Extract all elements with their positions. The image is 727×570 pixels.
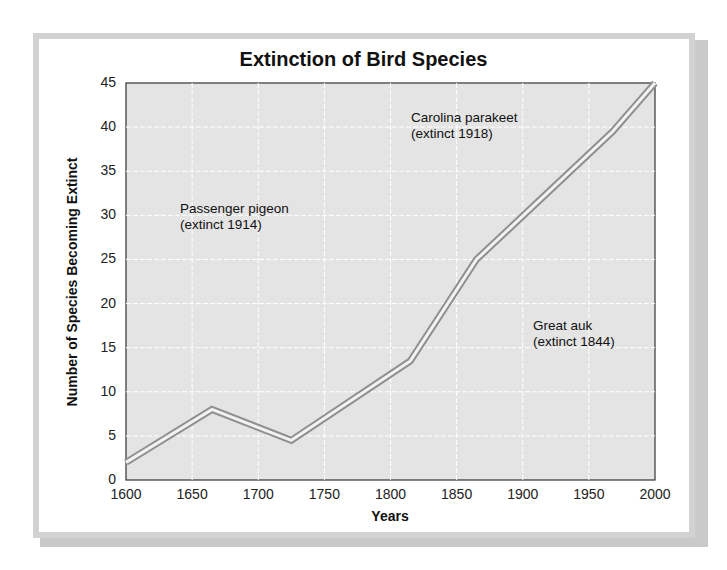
y-tick-label: 45 xyxy=(100,74,116,90)
y-tick-label: 10 xyxy=(100,383,116,399)
annotation-carolina-parakeet: Carolina parakeet (extinct 1918) xyxy=(411,110,518,142)
x-tick-label: 1750 xyxy=(309,486,340,502)
y-tick-label: 20 xyxy=(100,295,116,311)
x-tick-label: 2000 xyxy=(639,486,670,502)
y-tick-label: 5 xyxy=(108,427,116,443)
annotation-label: Carolina parakeet xyxy=(411,110,518,126)
x-tick-label: 1600 xyxy=(110,486,141,502)
x-tick-label: 1900 xyxy=(507,486,538,502)
y-tick-label: 35 xyxy=(100,162,116,178)
y-tick-label: 30 xyxy=(100,206,116,222)
annotation-sub: (extinct 1914) xyxy=(180,217,289,233)
x-tick-label: 1950 xyxy=(573,486,604,502)
annotation-passenger-pigeon: Passenger pigeon (extinct 1914) xyxy=(180,201,289,233)
annotation-label: Great auk xyxy=(533,318,615,334)
y-tick-label: 0 xyxy=(108,471,116,487)
x-tick-label: 1700 xyxy=(243,486,274,502)
annotation-great-auk: Great auk (extinct 1844) xyxy=(533,318,615,350)
annotation-label: Passenger pigeon xyxy=(180,201,289,217)
x-tick-label: 1850 xyxy=(441,486,472,502)
annotation-sub: (extinct 1918) xyxy=(411,126,518,142)
y-tick-label: 40 xyxy=(100,118,116,134)
annotation-sub: (extinct 1844) xyxy=(533,334,615,350)
y-tick-label: 25 xyxy=(100,250,116,266)
x-tick-label: 1800 xyxy=(375,486,406,502)
y-tick-label: 15 xyxy=(100,339,116,355)
x-tick-label: 1650 xyxy=(177,486,208,502)
